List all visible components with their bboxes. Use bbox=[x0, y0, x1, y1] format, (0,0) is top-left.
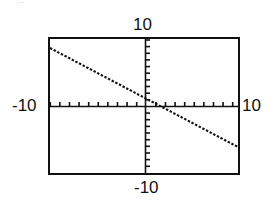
clipped-top-artifact: .. bbox=[18, 0, 32, 4]
x-max-label: 10 bbox=[242, 97, 261, 114]
plot-window-frame bbox=[48, 37, 240, 175]
y-max-label: 10 bbox=[133, 16, 152, 33]
x-min-label: -10 bbox=[12, 97, 37, 114]
graphing-calculator-figure: .. bbox=[0, 0, 266, 203]
y-min-label: -10 bbox=[134, 179, 159, 196]
